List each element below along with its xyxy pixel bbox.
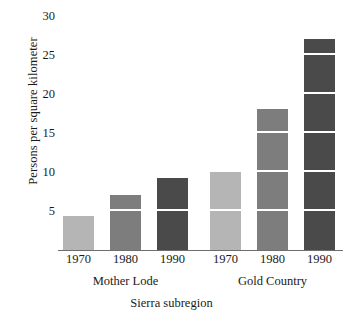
- x-tick-label: 1990: [160, 252, 185, 267]
- segment-divider: [304, 209, 335, 211]
- bar-segment-dividers: [210, 172, 241, 250]
- segment-divider: [304, 131, 335, 133]
- segment-divider: [210, 209, 241, 211]
- y-tick-label: 5: [31, 203, 55, 218]
- segment-divider: [304, 53, 335, 55]
- segment-divider: [304, 170, 335, 172]
- x-tick-label: 1970: [66, 252, 91, 267]
- x-tick-label: 1990: [307, 252, 332, 267]
- bar-chart: Persons per square kilometer 51015202530…: [0, 0, 343, 325]
- y-tick-label: 10: [31, 164, 55, 179]
- x-tick-label: 1980: [113, 252, 138, 267]
- x-tick-label: 1980: [260, 252, 285, 267]
- bar-segment-dividers: [304, 39, 335, 249]
- segment-divider: [304, 92, 335, 94]
- bar-segment-dividers: [110, 195, 141, 250]
- bar-segment-dividers: [157, 178, 188, 250]
- plot-area: 51015202530: [58, 8, 343, 251]
- y-tick-label: 25: [31, 47, 55, 62]
- bar-segment-dividers: [63, 216, 94, 249]
- y-axis-title: Persons per square kilometer: [22, 0, 44, 236]
- y-tick-label: 30: [31, 8, 55, 23]
- group-label: Mother Lode: [93, 274, 159, 289]
- x-axis-baseline: [58, 250, 343, 252]
- segment-divider: [257, 131, 288, 133]
- bar: [63, 216, 94, 249]
- bar: [210, 172, 241, 250]
- segment-divider: [257, 209, 288, 211]
- bar-segment-dividers: [257, 109, 288, 249]
- x-tick-label: 1970: [213, 252, 238, 267]
- bar: [257, 109, 288, 249]
- segment-divider: [157, 209, 188, 211]
- x-axis-title: Sierra subregion: [0, 296, 343, 311]
- bar: [304, 39, 335, 249]
- y-tick-label: 20: [31, 86, 55, 101]
- segment-divider: [110, 209, 141, 211]
- bar: [157, 178, 188, 250]
- group-label: Gold Country: [238, 274, 307, 289]
- y-tick-label: 15: [31, 125, 55, 140]
- bar: [110, 195, 141, 250]
- segment-divider: [257, 170, 288, 172]
